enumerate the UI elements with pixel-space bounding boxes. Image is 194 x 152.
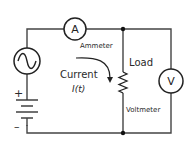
battery: + – [14,87,38,133]
voltmeter-letter: V [167,75,175,88]
arrow-head-icon [107,77,113,83]
voltmeter: V [159,69,183,93]
current-label: Current [60,69,98,80]
ac-source [14,48,40,74]
voltmeter-label: Voltmeter [126,106,160,114]
ammeter: A [64,18,86,40]
wire-left-top [27,29,64,48]
current-symbol: I(t) [72,84,85,94]
ammeter-letter: A [71,23,79,36]
circuit-diagram: + – A Ammeter Load V Voltmeter Current I… [0,0,194,152]
junction-top [121,27,125,31]
junction-bottom [121,131,125,135]
load-resistor [119,72,127,93]
battery-minus-label: – [14,120,20,133]
battery-plus-label: + [14,87,23,100]
ammeter-label: Ammeter [80,42,113,50]
load-label: Load [129,57,153,68]
